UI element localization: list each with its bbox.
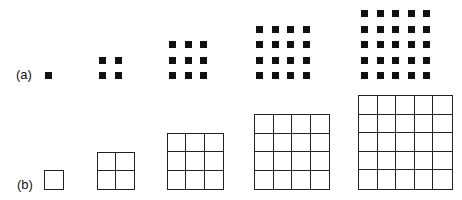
dot bbox=[423, 57, 430, 64]
grid-cell bbox=[396, 96, 415, 115]
row-a-label: (a) bbox=[16, 68, 32, 81]
dot bbox=[287, 57, 294, 64]
grid-cell bbox=[433, 133, 452, 152]
dot bbox=[303, 72, 310, 79]
grid-cell bbox=[274, 115, 293, 134]
dot bbox=[169, 57, 176, 64]
grid-cell bbox=[292, 152, 311, 171]
dot bbox=[272, 41, 279, 48]
dot bbox=[361, 41, 368, 48]
grid-cell bbox=[186, 134, 204, 152]
dot bbox=[361, 57, 368, 64]
grid-cell bbox=[205, 134, 223, 152]
dot bbox=[377, 57, 384, 64]
grid-cell bbox=[116, 171, 134, 189]
dot bbox=[377, 10, 384, 17]
grid-square-3x3 bbox=[167, 133, 224, 190]
grid-cell bbox=[98, 153, 116, 171]
dot bbox=[423, 26, 430, 33]
grid-cell bbox=[168, 134, 186, 152]
dot bbox=[303, 41, 310, 48]
dot bbox=[45, 72, 52, 79]
dot bbox=[185, 72, 192, 79]
dot bbox=[392, 72, 399, 79]
dot bbox=[256, 41, 263, 48]
grid-cell bbox=[255, 152, 274, 171]
dot bbox=[303, 57, 310, 64]
grid-cell bbox=[378, 170, 397, 189]
dot bbox=[287, 26, 294, 33]
dot bbox=[423, 72, 430, 79]
dot bbox=[115, 72, 122, 79]
grid-cell bbox=[359, 96, 378, 115]
grid-cell bbox=[98, 171, 116, 189]
dot bbox=[272, 26, 279, 33]
dot bbox=[408, 26, 415, 33]
grid-square-5x5 bbox=[358, 95, 453, 190]
grid-cell bbox=[116, 153, 134, 171]
grid-cell bbox=[186, 152, 204, 170]
grid-cell bbox=[359, 115, 378, 134]
grid-cell bbox=[311, 115, 330, 134]
grid-cell bbox=[255, 134, 274, 153]
dot bbox=[200, 72, 207, 79]
grid-cell bbox=[292, 171, 311, 190]
grid-cell bbox=[433, 170, 452, 189]
dot bbox=[377, 41, 384, 48]
dot bbox=[392, 57, 399, 64]
grid-cell bbox=[274, 134, 293, 153]
dot bbox=[408, 10, 415, 17]
grid-cell bbox=[396, 170, 415, 189]
grid-cell bbox=[415, 170, 434, 189]
grid-cell bbox=[415, 115, 434, 134]
dot bbox=[256, 57, 263, 64]
dot bbox=[169, 41, 176, 48]
grid-square-4x4 bbox=[254, 114, 330, 190]
grid-cell bbox=[274, 171, 293, 190]
grid-cell bbox=[433, 115, 452, 134]
grid-cell bbox=[255, 115, 274, 134]
dot bbox=[185, 41, 192, 48]
grid-cell bbox=[311, 171, 330, 190]
row-b-label: (b) bbox=[17, 178, 33, 191]
grid-cell bbox=[274, 152, 293, 171]
grid-cell bbox=[378, 133, 397, 152]
dot bbox=[185, 57, 192, 64]
grid-cell bbox=[255, 171, 274, 190]
grid-cell bbox=[396, 115, 415, 134]
grid-cell bbox=[415, 96, 434, 115]
dot bbox=[99, 57, 106, 64]
grid-cell bbox=[396, 133, 415, 152]
grid-cell bbox=[168, 152, 186, 170]
dot bbox=[169, 72, 176, 79]
dot bbox=[303, 26, 310, 33]
dot bbox=[361, 72, 368, 79]
dot bbox=[287, 41, 294, 48]
grid-cell bbox=[186, 171, 204, 189]
dot bbox=[361, 26, 368, 33]
grid-cell bbox=[205, 171, 223, 189]
grid-cell bbox=[415, 133, 434, 152]
dot bbox=[256, 26, 263, 33]
grid-cell bbox=[292, 134, 311, 153]
grid-cell bbox=[359, 170, 378, 189]
grid-cell bbox=[168, 171, 186, 189]
dot bbox=[392, 10, 399, 17]
dot bbox=[272, 57, 279, 64]
grid-cell bbox=[415, 152, 434, 171]
grid-cell bbox=[433, 152, 452, 171]
grid-cell bbox=[205, 152, 223, 170]
grid-cell bbox=[378, 152, 397, 171]
dot bbox=[361, 10, 368, 17]
grid-cell bbox=[292, 115, 311, 134]
dot bbox=[287, 72, 294, 79]
grid-cell bbox=[45, 171, 63, 189]
dot bbox=[423, 10, 430, 17]
grid-cell bbox=[396, 152, 415, 171]
dot bbox=[392, 26, 399, 33]
dot bbox=[377, 72, 384, 79]
dot bbox=[200, 41, 207, 48]
dot bbox=[392, 41, 399, 48]
grid-square-2x2 bbox=[97, 152, 135, 190]
dot bbox=[408, 57, 415, 64]
